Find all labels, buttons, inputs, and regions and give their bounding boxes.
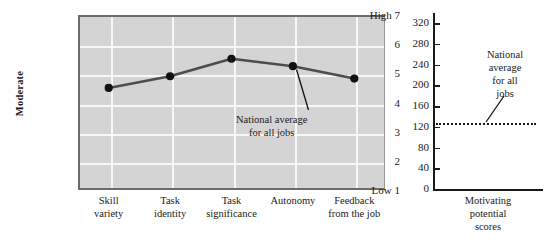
x-label-line2: potential bbox=[438, 207, 538, 220]
data-point-task-significance bbox=[227, 55, 235, 63]
data-series-svg bbox=[0, 0, 400, 244]
data-line-series bbox=[109, 59, 355, 88]
right-x-axis-label: Motivating potential scores bbox=[438, 194, 538, 233]
data-point-feedback bbox=[350, 74, 358, 82]
right-chart-annotation: National average for all jobs bbox=[456, 48, 554, 100]
x-label-line3: scores bbox=[438, 220, 538, 233]
annotation-line4: jobs bbox=[456, 87, 554, 100]
data-point-autonomy bbox=[289, 62, 297, 70]
data-point-task-identity bbox=[166, 72, 174, 80]
annotation-line1: National bbox=[456, 48, 554, 61]
data-point-skill-variety bbox=[105, 84, 113, 92]
x-label-line1: Motivating bbox=[438, 194, 538, 207]
left-chart-annotation: National average for all jobs bbox=[236, 113, 307, 139]
annotation-line2: for all jobs bbox=[236, 126, 307, 139]
annotation-line1: National average bbox=[236, 113, 307, 126]
annotation-line2: average bbox=[456, 61, 554, 74]
annotation-leader-line bbox=[297, 70, 309, 111]
motivating-potential-score-chart: 320 280 240 200 160 120 80 40 0 National… bbox=[400, 0, 557, 244]
job-characteristics-line-chart: High 7 6 5 4 3 2 Low 1 Moderate Skill va… bbox=[0, 0, 400, 244]
annotation-line3: for all bbox=[456, 74, 554, 87]
